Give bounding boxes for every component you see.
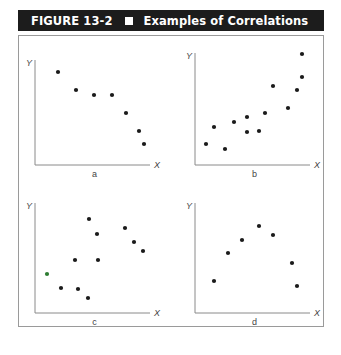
data-point — [141, 249, 145, 253]
x-axis-label: X — [313, 308, 321, 318]
panel-caption: b — [252, 169, 257, 179]
x-axis-label: X — [153, 160, 161, 170]
y-axis-label: Y — [186, 201, 193, 211]
panel-caption: d — [252, 317, 257, 327]
data-point — [95, 232, 99, 236]
data-point — [73, 258, 77, 262]
axes — [35, 60, 150, 165]
data-point — [76, 287, 80, 291]
data-point — [212, 279, 216, 283]
data-point — [295, 284, 299, 288]
data-point — [123, 226, 127, 230]
data-point — [92, 93, 96, 97]
y-axis-label: Y — [26, 201, 33, 211]
data-point — [257, 129, 261, 133]
data-point — [124, 111, 128, 115]
data-point — [300, 52, 304, 56]
data-point — [142, 142, 146, 146]
data-point — [132, 240, 136, 244]
data-point — [87, 217, 91, 221]
axes — [195, 203, 310, 313]
panel-caption: c — [92, 317, 97, 327]
panel-c: YXc — [26, 201, 161, 327]
panel-d: YXd — [186, 201, 321, 327]
data-point — [232, 120, 236, 124]
x-axis-label: X — [313, 160, 321, 170]
data-point — [223, 147, 227, 151]
data-point — [245, 115, 249, 119]
data-point — [271, 84, 275, 88]
data-point — [295, 88, 299, 92]
panel-b: YXb — [186, 51, 321, 179]
data-point — [290, 261, 294, 265]
data-point — [226, 251, 230, 255]
data-point — [137, 129, 141, 133]
data-point — [45, 272, 49, 276]
data-point — [56, 70, 60, 74]
axes — [195, 53, 310, 165]
x-axis-label: X — [153, 308, 161, 318]
panel-a: YXa — [26, 58, 161, 179]
data-point — [263, 111, 267, 115]
data-point — [204, 142, 208, 146]
data-point — [96, 258, 100, 262]
data-point — [212, 125, 216, 129]
panel-caption: a — [92, 169, 97, 179]
data-point — [257, 224, 261, 228]
data-point — [59, 286, 63, 290]
scatter-panels: YXaYXbYXcYXd — [0, 0, 341, 355]
data-point — [110, 93, 114, 97]
y-axis-label: Y — [186, 51, 193, 61]
axes — [35, 203, 150, 313]
data-point — [245, 130, 249, 134]
data-point — [74, 88, 78, 92]
y-axis-label: Y — [26, 58, 33, 68]
data-point — [300, 75, 304, 79]
data-point — [86, 296, 90, 300]
data-point — [240, 238, 244, 242]
data-point — [271, 233, 275, 237]
data-point — [286, 106, 290, 110]
